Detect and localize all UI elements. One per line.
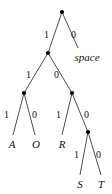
edge-bit-label: 0 (71, 30, 76, 40)
tree-edge (48, 53, 72, 93)
tree-edge (48, 12, 62, 53)
edge-bit-label: 0 (32, 110, 37, 120)
leaf-label-s: S (77, 179, 83, 190)
edge-bit-label: 1 (74, 150, 79, 160)
edge-bit-label: 1 (56, 110, 61, 120)
tree-internal-node (70, 91, 74, 95)
edge-bit-label: 1 (4, 110, 9, 120)
edge-bit-label: 0 (54, 70, 59, 80)
edge-bit-label: 1 (26, 70, 31, 80)
tree-edge (13, 93, 24, 135)
leaf-label-r: R (59, 139, 66, 150)
leaf-label-space: space (74, 52, 99, 63)
edge-bit-label: 0 (96, 150, 101, 160)
tree-internal-node (22, 91, 26, 95)
huffman-tree-figure: 1010101010spaceAORST (0, 0, 112, 194)
tree-internal-node (46, 51, 50, 55)
tree-edge (80, 132, 88, 175)
tree-graphics (0, 0, 112, 194)
leaf-label-t: T (98, 179, 104, 190)
edge-bit-label: 1 (44, 30, 49, 40)
tree-edge (62, 93, 72, 135)
tree-internal-node (60, 10, 64, 14)
tree-internal-node (86, 130, 90, 134)
leaf-label-a: A (9, 139, 16, 150)
leaf-label-o: O (32, 139, 40, 150)
tree-edges-group (13, 12, 101, 175)
edge-bit-label: 0 (84, 110, 89, 120)
